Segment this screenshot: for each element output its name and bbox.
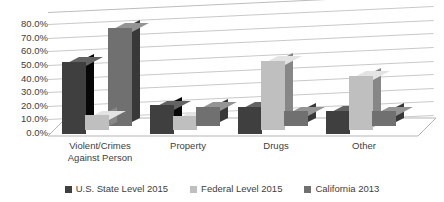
bar [62, 62, 86, 134]
legend-swatch-icon [65, 186, 72, 193]
bar-face [349, 76, 373, 131]
bar-face [150, 105, 174, 134]
bar-face [85, 115, 109, 130]
y-axis-tick-label: 40.0% [2, 74, 48, 84]
legend-item[interactable]: California 2013 [304, 184, 379, 194]
y-axis-tick-label: 20.0% [2, 101, 48, 111]
x-axis-category-label: Other [310, 140, 418, 152]
bar [349, 76, 373, 131]
legend-label: California 2013 [315, 184, 379, 194]
bar [196, 107, 220, 126]
bar-face [238, 107, 262, 134]
bar-side [132, 20, 140, 122]
y-axis-tick-label: 60.0% [2, 46, 48, 56]
y-axis-tick-label: 70.0% [2, 33, 48, 43]
y-axis-tick-label: 0.0% [2, 128, 48, 138]
bar [238, 107, 262, 134]
y-axis-tick-label: 10.0% [2, 114, 48, 124]
legend-swatch-icon [190, 186, 197, 193]
legend-item[interactable]: Federal Level 2015 [190, 184, 282, 194]
bar [284, 111, 308, 126]
bar [326, 111, 350, 134]
bar-groups [48, 6, 440, 138]
chart-legend: U.S. State Level 2015Federal Level 2015C… [0, 180, 444, 198]
y-axis: 0.0%10.0%20.0%30.0%40.0%50.0%60.0%70.0%8… [0, 0, 48, 140]
legend-label: U.S. State Level 2015 [76, 184, 168, 194]
y-axis-tick-label: 80.0% [2, 19, 48, 29]
x-axis-category-labels: Violent/Crimes Against PersonPropertyDru… [48, 140, 440, 174]
bar-face [284, 111, 308, 126]
bar [173, 116, 197, 130]
bar-face [326, 111, 350, 134]
bar-face [62, 62, 86, 134]
bar-face [372, 111, 396, 126]
bar-face [261, 61, 285, 130]
legend-swatch-icon [304, 186, 311, 193]
bar [261, 61, 285, 130]
bar [150, 105, 174, 134]
bar-face [196, 107, 220, 126]
bar [372, 111, 396, 126]
bar-face [173, 116, 197, 130]
bar-chart: 0.0%10.0%20.0%30.0%40.0%50.0%60.0%70.0%8… [0, 0, 444, 202]
y-axis-tick-label: 30.0% [2, 87, 48, 97]
legend-item[interactable]: U.S. State Level 2015 [65, 184, 168, 194]
bar [85, 115, 109, 130]
plot-area [48, 6, 440, 138]
y-axis-tick-label: 50.0% [2, 60, 48, 70]
legend-label: Federal Level 2015 [201, 184, 282, 194]
